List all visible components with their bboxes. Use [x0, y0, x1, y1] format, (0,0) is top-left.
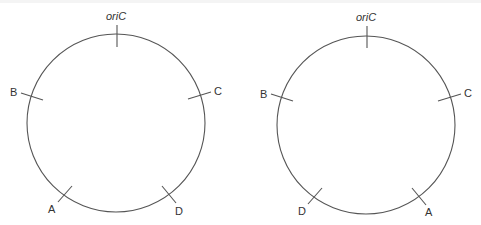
right-d-label: D — [298, 206, 306, 217]
left-chromosome — [21, 25, 211, 212]
diagram-canvas: oriC B C A D oriC B C D A — [0, 0, 481, 225]
left-d-tick — [162, 186, 176, 203]
left-oric-label: oriC — [106, 11, 126, 22]
right-b-label: B — [260, 89, 267, 100]
right-oric-label: oriC — [356, 12, 376, 23]
right-a-tick — [412, 188, 426, 205]
right-c-label: C — [464, 88, 472, 99]
right-circle — [277, 36, 455, 214]
circle-diagrams — [0, 0, 481, 225]
left-a-label: A — [48, 204, 55, 215]
left-c-label: C — [214, 86, 222, 97]
right-a-label: A — [425, 207, 432, 218]
left-b-label: B — [10, 87, 17, 98]
left-circle — [27, 34, 205, 212]
left-d-label: D — [175, 206, 183, 217]
right-chromosome — [271, 26, 461, 214]
